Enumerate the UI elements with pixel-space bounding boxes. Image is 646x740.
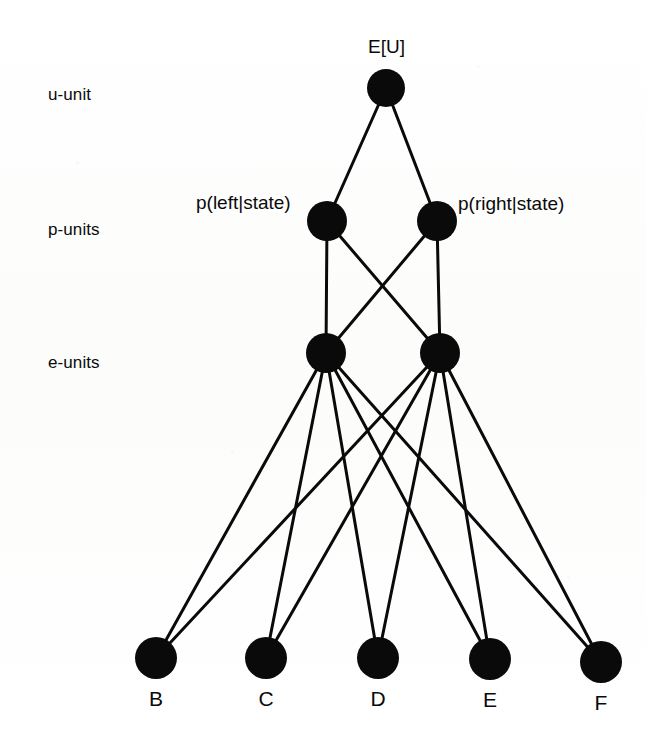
layer-label-p-units: p-units — [48, 221, 100, 238]
layer-label-e-units: e-units — [48, 354, 100, 371]
leaf-label-d: D — [370, 688, 385, 709]
edge-e2-C — [266, 353, 440, 658]
edge-layer — [156, 88, 601, 662]
node-layer — [135, 69, 622, 683]
edge-u-p2 — [386, 88, 437, 221]
node-F — [580, 641, 622, 683]
node-C — [245, 637, 287, 679]
node-p1 — [307, 201, 347, 241]
edge-e2-D — [378, 353, 440, 658]
node-label-pleft: p(left|state) — [196, 193, 291, 212]
node-label-eu: E[U] — [368, 37, 405, 56]
edge-e1-B — [156, 353, 326, 658]
leaf-label-c: C — [258, 688, 273, 709]
layer-label-u-unit: u-unit — [48, 86, 91, 103]
node-e2 — [420, 333, 460, 373]
node-E — [469, 638, 511, 680]
edge-e2-B — [156, 353, 440, 658]
node-D — [357, 637, 399, 679]
diagram-canvas: u-unitp-unitse-units E[U]p(left|state)p(… — [0, 0, 646, 740]
node-e1 — [306, 333, 346, 373]
node-p2 — [417, 201, 457, 241]
node-B — [135, 637, 177, 679]
node-label-pright: p(right|state) — [458, 194, 564, 213]
leaf-label-e: E — [483, 689, 497, 710]
leaf-label-f: F — [595, 692, 608, 713]
leaf-label-b: B — [149, 688, 163, 709]
edge-u-p1 — [327, 88, 386, 221]
node-u — [367, 69, 405, 107]
